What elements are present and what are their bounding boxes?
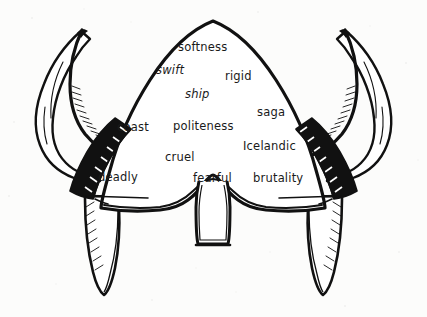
word-politeness: politeness: [173, 120, 234, 133]
word-cruel: cruel: [165, 151, 195, 164]
word-icelandic: Icelandic: [243, 140, 296, 153]
word-softness: softness: [178, 41, 227, 54]
word-ship: ship: [185, 88, 210, 101]
word-fearful: fearful: [193, 172, 232, 185]
word-saga: saga: [257, 106, 285, 119]
word-labels: softness swift rigid ship saga coast pol…: [0, 0, 427, 317]
figure-page: softness swift rigid ship saga coast pol…: [0, 0, 427, 317]
word-rigid: rigid: [225, 70, 252, 83]
word-brutality: brutality: [253, 172, 303, 185]
word-coast: coast: [117, 121, 149, 134]
word-deadly: deadly: [98, 171, 138, 184]
word-swift: swift: [156, 64, 184, 77]
